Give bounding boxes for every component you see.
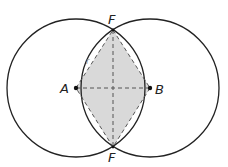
label-F-bottom: F [108,150,116,165]
label-B: B [155,82,164,97]
intersecting-circles-diagram: A B F F r [0,0,228,167]
point-A [74,86,78,90]
label-A: A [59,81,69,96]
label-r: r [86,57,90,66]
label-F-top: F [108,12,116,27]
point-F-top [112,29,115,32]
point-B [148,86,152,90]
diagram-canvas: A B F F r [0,0,228,167]
point-F-bottom [112,146,115,149]
